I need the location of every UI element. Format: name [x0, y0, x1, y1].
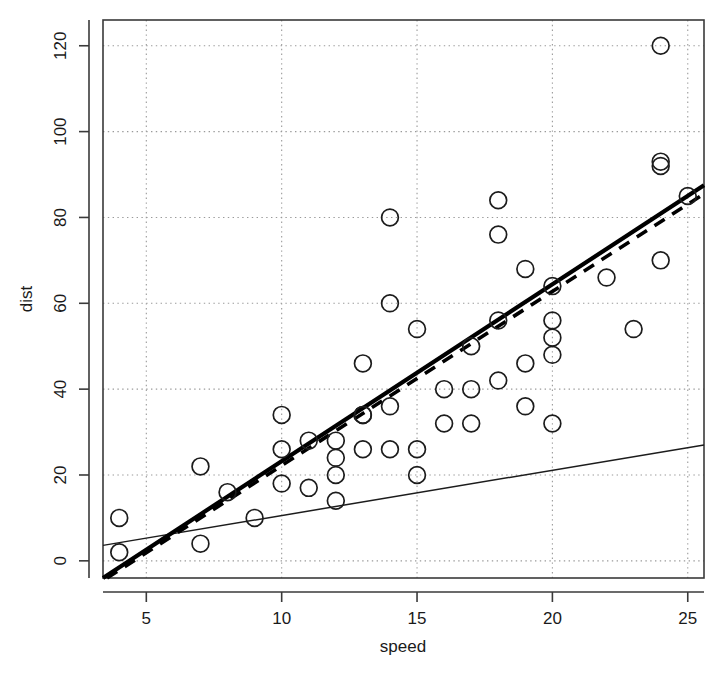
y-tick-label: 0	[51, 556, 70, 565]
plot-canvas: 510152025 020406080100120 speed dist	[0, 0, 727, 678]
data-point-circle	[652, 158, 669, 175]
y-tick-label: 120	[51, 32, 70, 60]
scatter-plot-figure: 510152025 020406080100120 speed dist	[0, 0, 727, 678]
data-point-circle	[192, 458, 209, 475]
data-point-circle	[111, 510, 128, 527]
x-axis-title: speed	[380, 637, 426, 656]
plot-frame-box	[103, 20, 704, 578]
data-points	[111, 37, 696, 560]
data-point-circle	[490, 372, 507, 389]
data-point-circle	[436, 415, 453, 432]
data-point-circle	[273, 475, 290, 492]
x-tick-label: 15	[408, 609, 427, 628]
data-point-circle	[463, 415, 480, 432]
regression-line-dashed	[107, 194, 704, 578]
y-axis-tick-labels: 020406080100120	[51, 32, 70, 566]
regression-line-thick	[103, 185, 704, 578]
y-tick-label: 100	[51, 117, 70, 145]
y-axis-title: dist	[17, 286, 36, 313]
data-point-circle	[192, 535, 209, 552]
data-point-circle	[246, 510, 263, 527]
data-point-circle	[111, 544, 128, 561]
x-axis-ticks	[146, 592, 687, 602]
data-point-circle	[327, 449, 344, 466]
data-point-circle	[517, 355, 534, 372]
data-point-circle	[490, 192, 507, 209]
data-point-circle	[544, 312, 561, 329]
x-tick-label: 20	[543, 609, 562, 628]
reference-line-thin	[103, 445, 704, 545]
data-point-circle	[354, 441, 371, 458]
y-tick-label: 80	[51, 208, 70, 227]
data-point-circle	[544, 346, 561, 363]
data-point-circle	[652, 153, 669, 170]
data-point-circle	[300, 479, 317, 496]
data-point-circle	[463, 381, 480, 398]
x-axis-tick-labels: 510152025	[142, 609, 698, 628]
data-point-circle	[354, 355, 371, 372]
data-point-circle	[517, 398, 534, 415]
gridlines	[103, 20, 704, 578]
data-point-circle	[652, 252, 669, 269]
y-tick-label: 60	[51, 294, 70, 313]
x-tick-label: 25	[678, 609, 697, 628]
fitted-lines	[103, 185, 704, 578]
data-point-circle	[517, 261, 534, 278]
data-point-circle	[382, 398, 399, 415]
y-axis-ticks	[79, 46, 89, 561]
y-tick-label: 20	[51, 466, 70, 485]
x-tick-label: 10	[272, 609, 291, 628]
data-point-circle	[382, 441, 399, 458]
x-tick-label: 5	[142, 609, 151, 628]
data-point-circle	[490, 226, 507, 243]
data-point-circle	[327, 432, 344, 449]
y-tick-label: 40	[51, 380, 70, 399]
data-point-circle	[598, 269, 615, 286]
data-point-circle	[625, 321, 642, 338]
